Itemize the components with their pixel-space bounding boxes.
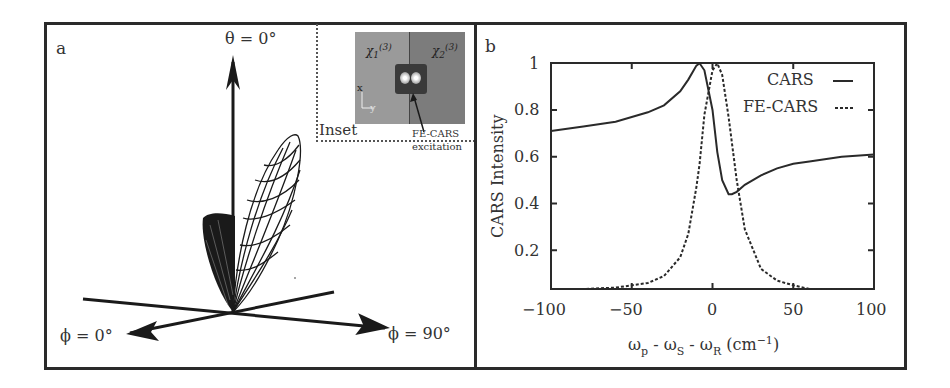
cars-intensity-chart xyxy=(0,0,950,388)
ytick-0.6: 0.6 xyxy=(514,147,539,166)
xtick-50: 50 xyxy=(783,300,803,319)
x-axis-label: ωp - ωS - ωR (cm−1) xyxy=(628,334,779,358)
ytick-1: 1 xyxy=(529,54,539,73)
xtick-m100: −100 xyxy=(522,300,566,319)
plot-frame xyxy=(551,63,874,289)
series-cars xyxy=(551,63,874,194)
xtick-0: 0 xyxy=(707,300,717,319)
legend-cars: CARS xyxy=(767,70,814,89)
xtick-m50: −50 xyxy=(609,300,643,319)
y-axis-label: CARS Intensity xyxy=(488,114,507,238)
series-fe-cars xyxy=(551,63,874,289)
ytick-0.4: 0.4 xyxy=(514,194,539,213)
ytick-0.8: 0.8 xyxy=(514,100,539,119)
xtick-100: 100 xyxy=(856,300,887,319)
ytick-0.2: 0.2 xyxy=(514,241,539,260)
legend-fe-cars: FE-CARS xyxy=(743,97,818,116)
